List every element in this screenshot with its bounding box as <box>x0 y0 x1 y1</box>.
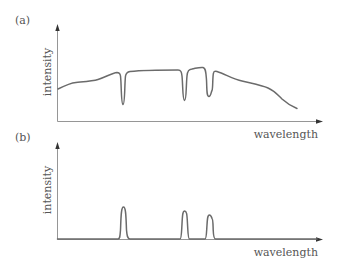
panel-b-y-arrow-icon <box>55 142 59 149</box>
figure-canvas: (a) intensity wavelength (b) intensity w… <box>0 0 337 271</box>
panel-b-x-label: wavelength <box>254 246 318 259</box>
panel-a-y-arrow-icon <box>55 24 59 31</box>
panel-b-emission-curve <box>58 207 318 239</box>
panel-a-x-label: wavelength <box>254 128 318 141</box>
panel-a-y-label: intensity <box>41 47 54 96</box>
panel-a: (a) intensity wavelength <box>15 14 323 141</box>
panel-b-y-label: intensity <box>41 165 54 214</box>
panel-a-label: (a) <box>15 14 30 27</box>
panel-b-label: (b) <box>15 131 31 144</box>
panel-b: (b) intensity wavelength <box>15 131 323 259</box>
spectra-figure: (a) intensity wavelength (b) intensity w… <box>0 0 337 271</box>
panel-a-x-arrow-icon <box>316 119 323 123</box>
panel-a-absorption-curve <box>58 67 297 108</box>
